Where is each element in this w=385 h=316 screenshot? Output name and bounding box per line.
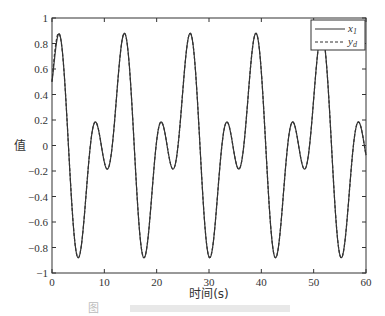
y-tick-label: −0.4	[28, 191, 48, 203]
series-yd-line	[52, 33, 366, 257]
x-tick-label: 50	[308, 276, 320, 288]
plot-frame	[52, 18, 366, 273]
y-axis-ticks: −1−0.8−0.6−0.4−0.200.20.40.60.81	[28, 12, 366, 279]
series-x1-line	[52, 33, 366, 257]
x-tick-label: 40	[256, 276, 268, 288]
y-tick-label: 0.4	[34, 89, 48, 101]
y-tick-label: 0.2	[34, 114, 48, 126]
y-axis-title: 值	[14, 138, 26, 153]
y-tick-label: 1	[43, 12, 49, 24]
line-chart: 0102030405060 −1−0.8−0.6−0.4−0.200.20.40…	[0, 0, 385, 316]
x-axis-title: 时间(s)	[189, 287, 229, 301]
y-tick-label: −1	[36, 267, 48, 279]
y-tick-label: −0.2	[28, 165, 48, 177]
y-tick-label: 0	[43, 140, 49, 152]
figure-caption: 图	[88, 302, 290, 315]
x-tick-label: 0	[49, 276, 55, 288]
x-tick-label: 60	[361, 276, 373, 288]
plot-curves	[52, 33, 366, 257]
y-tick-label: 0.6	[34, 63, 48, 75]
y-tick-label: −0.8	[28, 242, 48, 254]
x-tick-label: 10	[99, 276, 111, 288]
x-tick-label: 20	[151, 276, 163, 288]
y-tick-label: 0.8	[34, 38, 48, 50]
legend-box	[311, 20, 365, 50]
caption-faded-text	[130, 305, 290, 312]
caption-text: 图	[88, 302, 99, 315]
y-tick-label: −0.6	[28, 216, 48, 228]
legend: x1 yd	[311, 20, 365, 50]
x-axis-ticks: 0102030405060	[49, 18, 372, 288]
